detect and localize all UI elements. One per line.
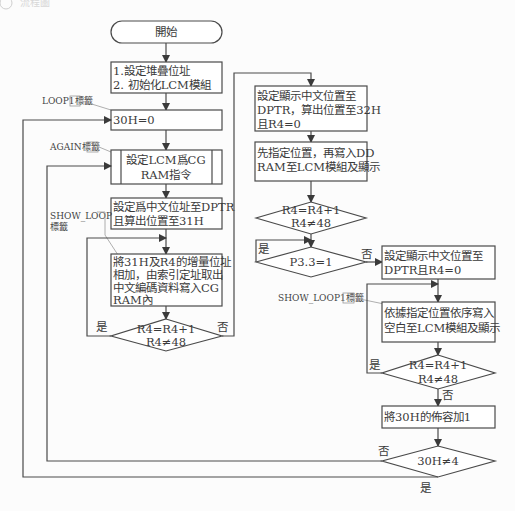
svg-text:RAM指令: RAM指令 [141,168,193,182]
decision-p33: P3.3=1 是 否 [256,242,373,277]
yes-label: 是 [420,481,432,495]
loop1-label: LOOP1標籤 [42,95,111,110]
yes-label: 是 [258,242,270,256]
svg-text:DPTR且R4=0: DPTR且R4=0 [384,263,461,277]
svg-text:將30H的佈容加1: 將30H的佈容加1 [384,410,471,424]
svg-text:依據指定位置依序寫入: 依據指定位置依序寫入 [384,306,495,320]
svg-text:且算出位置至31H: 且算出位置至31H [113,214,204,228]
yes-label: 是 [96,320,108,334]
svg-text:R4=R4+1: R4=R4+1 [137,322,196,336]
start-label: 開始 [155,25,178,39]
svg-text:RAM內: RAM內 [113,293,153,307]
svg-text:DPTR，算出位置至32H: DPTR，算出位置至32H [257,103,381,117]
decision-r4-2: R4=R4+1 R4≠48 [256,202,366,234]
decision-30h: 30H≠4 否 是 [378,444,495,495]
init-box: 1.設定堆疊位址 2. 初始化LCM模組 [111,62,222,93]
svg-text:設定爲中文位址至DPTR: 設定爲中文位址至DPTR [113,200,235,214]
decision-r4-1: R4=R4+1 R4≠48 是 否 [96,319,229,351]
header-title: 流程圖 [20,0,50,8]
no-label: 否 [217,320,229,334]
set-display-pos-box: 設定顯示中文位置至 DPTR，算出位置至32H 且R4=0 [255,86,381,131]
svg-text:空白至LCM模組及顯示: 空白至LCM模組及顯示 [384,321,500,335]
no-label: 否 [378,444,390,458]
no-label: 否 [361,247,373,261]
init-line-2: 2. 初始化LCM模組 [113,78,212,92]
svg-text:R4=R4+1: R4=R4+1 [282,203,341,217]
svg-text:R4≠48: R4≠48 [418,372,458,386]
svg-text:R4≠48: R4≠48 [291,216,331,230]
svg-text:SHOW_LOOP1標籤: SHOW_LOOP1標籤 [278,292,364,304]
svg-text:AGAIN標籤: AGAIN標籤 [49,141,100,152]
svg-text:且R4=0: 且R4=0 [257,117,301,131]
decision-r4-3: R4=R4+1 R4≠48 是 否 [369,355,495,402]
show-loop-label: SHOW_LOOP 標籤 [50,211,118,255]
no-label: 否 [442,388,454,402]
svg-text:LOOP1標籤: LOOP1標籤 [42,95,93,106]
init-line-1: 1.設定堆疊位址 [113,64,191,78]
svg-text:將31H及R4的增量位址: 將31H及R4的增量位址 [113,255,232,269]
write-ddram-box: 先指定位置，再寫入DD RAM至LCM模組及顯示 [255,142,380,181]
set-dptr-box: 設定爲中文位址至DPTR 且算出位置至31H [111,198,235,229]
header: 流程圖 [0,0,50,9]
set-30h-label: 30H=0 [113,113,155,127]
cgram-command-box: 設定LCM爲CG RAM指令 [111,150,222,184]
svg-text:先指定位置，再寫入DD: 先指定位置，再寫入DD [257,146,374,160]
svg-text:相加，由索引定址取出: 相加，由索引定址取出 [113,268,223,282]
svg-text:設定顯示中文位置至: 設定顯示中文位置至 [384,249,483,263]
svg-text:設定顯示中文位置至: 設定顯示中文位置至 [257,89,356,103]
show-loop1-label: SHOW_LOOP1標籤 [278,292,384,304]
start-terminal: 開始 [111,21,222,43]
yes-label: 是 [369,358,381,372]
set-30h-box: 30H=0 [111,110,222,130]
svg-text:P3.3=1: P3.3=1 [290,255,333,269]
inc-30h-box: 將30H的佈容加1 [382,406,495,428]
svg-text:R4≠48: R4≠48 [146,335,186,349]
svg-text:設定LCM爲CG: 設定LCM爲CG [126,153,205,167]
svg-text:SHOW_LOOP: SHOW_LOOP [50,211,112,222]
circled-number-icon [0,0,12,9]
svg-text:RAM至LCM模組及顯示: RAM至LCM模組及顯示 [257,160,380,174]
write-cgram-box: 將31H及R4的增量位址 相加，由索引定址取出 中文編碼資料寫入CG RAM內 [111,254,232,307]
set-display-pos2-box: 設定顯示中文位置至 DPTR且R4=0 [382,246,495,279]
write-blank-box: 依據指定位置依序寫入 空白至LCM模組及顯示 [382,302,500,342]
svg-text:30H≠4: 30H≠4 [417,454,459,468]
flowchart: 流程圖 開始 1.設定堆疊位址 2. 初始化LCM模組 LOOP1標籤 30H=… [0,0,515,511]
svg-text:R4=R4+1: R4=R4+1 [409,358,468,372]
again-label: AGAIN標籤 [49,141,111,152]
svg-text:標籤: 標籤 [50,221,68,232]
